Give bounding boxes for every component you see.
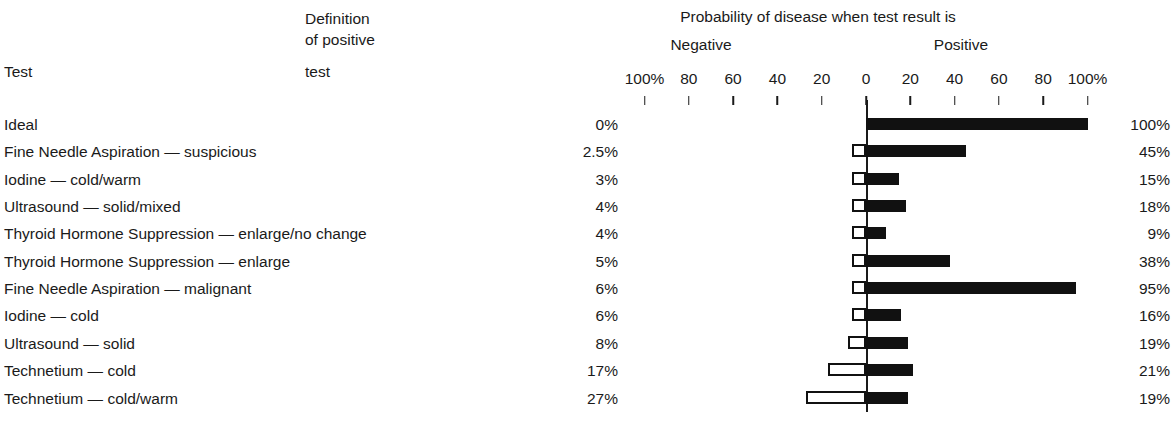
bar-negative xyxy=(852,199,866,212)
bar-positive xyxy=(866,364,913,376)
axis-tick-label: 80 xyxy=(1035,70,1052,88)
axis-tick-mark xyxy=(732,96,734,105)
bar-positive xyxy=(866,118,1088,130)
bar-negative xyxy=(852,144,866,157)
bar-positive xyxy=(866,255,950,267)
axis-side-label-positive: Positive xyxy=(866,36,1056,54)
axis-tick-mark xyxy=(1087,96,1089,105)
axis-tick-label: 100% xyxy=(1068,70,1108,88)
axis-tick-marks xyxy=(0,96,1174,108)
bar-positive xyxy=(866,309,901,321)
row-definition-value: 5% xyxy=(530,253,618,271)
row-test-label: Ultrasound — solid/mixed xyxy=(4,198,181,216)
row-positive-value: 19% xyxy=(1084,390,1170,408)
row-definition-value: 8% xyxy=(530,335,618,353)
axis-tick-label: 60 xyxy=(724,70,741,88)
axis-side-label-negative: Negative xyxy=(606,36,796,54)
bar-negative xyxy=(852,281,866,294)
row-test-label: Iodine — cold xyxy=(4,307,99,325)
row-definition-value: 2.5% xyxy=(530,143,618,161)
bar-negative xyxy=(848,336,866,349)
chart-row: Ultrasound — solid/mixed4%18% xyxy=(0,195,1174,222)
row-definition-value: 17% xyxy=(530,362,618,380)
row-definition-value: 6% xyxy=(530,280,618,298)
chart-row: Fine Needle Aspiration — suspicious2.5%4… xyxy=(0,140,1174,167)
axis-tick-mark xyxy=(1042,96,1044,105)
row-positive-value: 100% xyxy=(1084,116,1170,134)
row-positive-value: 21% xyxy=(1084,362,1170,380)
row-positive-value: 9% xyxy=(1084,225,1170,243)
chart-row: Ultrasound — solid8%19% xyxy=(0,332,1174,359)
bar-positive xyxy=(866,392,908,404)
axis-tick-label: 80 xyxy=(680,70,697,88)
row-test-label: Fine Needle Aspiration — malignant xyxy=(4,280,251,298)
axis-tick-mark xyxy=(821,96,823,105)
row-definition-value: 6% xyxy=(530,307,618,325)
bar-positive xyxy=(866,200,906,212)
row-positive-value: 19% xyxy=(1084,335,1170,353)
chart-row: Thyroid Hormone Suppression — enlarge/no… xyxy=(0,222,1174,249)
definition-column-header-line-2: of positive xyxy=(305,29,455,50)
row-test-label: Thyroid Hormone Suppression — enlarge xyxy=(4,253,290,271)
axis-tick-label: 100% xyxy=(625,70,665,88)
chart-row: Technetium — cold/warm27%19% xyxy=(0,387,1174,414)
row-positive-value: 38% xyxy=(1084,253,1170,271)
row-positive-value: 16% xyxy=(1084,307,1170,325)
row-test-label: Technetium — cold xyxy=(4,362,136,380)
axis-tick-mark xyxy=(688,96,690,105)
axis-tick-mark xyxy=(998,96,1000,105)
row-test-label: Thyroid Hormone Suppression — enlarge/no… xyxy=(4,225,367,243)
row-positive-value: 18% xyxy=(1084,198,1170,216)
row-definition-value: 3% xyxy=(530,171,618,189)
bar-negative xyxy=(806,391,866,404)
axis-tick-mark xyxy=(777,96,779,105)
bar-negative xyxy=(852,172,866,185)
row-test-label: Iodine — cold/warm xyxy=(4,171,141,189)
axis-tick-mark xyxy=(644,96,646,105)
bar-negative xyxy=(852,308,866,321)
chart-row: Thyroid Hormone Suppression — enlarge5%3… xyxy=(0,250,1174,277)
row-test-label: Technetium — cold/warm xyxy=(4,390,178,408)
axis-tick-labels: 100%80604020020406080100% xyxy=(0,70,1174,88)
chart-title: Probability of disease when test result … xyxy=(608,8,1028,26)
chart-row: Iodine — cold6%16% xyxy=(0,304,1174,331)
row-definition-value: 0% xyxy=(530,116,618,134)
axis-tick-label: 60 xyxy=(990,70,1007,88)
row-positive-value: 15% xyxy=(1084,171,1170,189)
bar-positive xyxy=(866,173,899,185)
row-positive-value: 45% xyxy=(1084,143,1170,161)
chart-row: Ideal0%100% xyxy=(0,113,1174,140)
row-test-label: Ideal xyxy=(4,116,38,134)
bar-negative xyxy=(852,226,866,239)
axis-tick-mark xyxy=(910,96,912,105)
chart-row: Fine Needle Aspiration — malignant6%95% xyxy=(0,277,1174,304)
row-definition-value: 27% xyxy=(530,390,618,408)
bar-negative xyxy=(828,363,866,376)
axis-tick-label: 0 xyxy=(862,70,871,88)
axis-tick-label: 20 xyxy=(902,70,919,88)
chart-row: Technetium — cold17%21% xyxy=(0,359,1174,386)
chart-row: Iodine — cold/warm3%15% xyxy=(0,168,1174,195)
axis-tick-label: 40 xyxy=(769,70,786,88)
figure-probability-of-disease: Probability of disease when test result … xyxy=(0,0,1174,422)
definition-column-header: Definition of positive xyxy=(305,8,455,50)
bar-positive xyxy=(866,227,886,239)
bar-positive xyxy=(866,282,1076,294)
row-test-label: Fine Needle Aspiration — suspicious xyxy=(4,143,256,161)
axis-tick-label: 20 xyxy=(813,70,830,88)
bar-positive xyxy=(866,337,908,349)
row-definition-value: 4% xyxy=(530,198,618,216)
row-definition-value: 4% xyxy=(530,225,618,243)
row-positive-value: 95% xyxy=(1084,280,1170,298)
axis-tick-mark xyxy=(954,96,956,105)
bar-positive xyxy=(866,145,966,157)
bar-negative xyxy=(852,254,866,267)
definition-column-header-line-1: Definition xyxy=(305,8,455,29)
axis-tick-label: 40 xyxy=(946,70,963,88)
row-test-label: Ultrasound — solid xyxy=(4,335,135,353)
